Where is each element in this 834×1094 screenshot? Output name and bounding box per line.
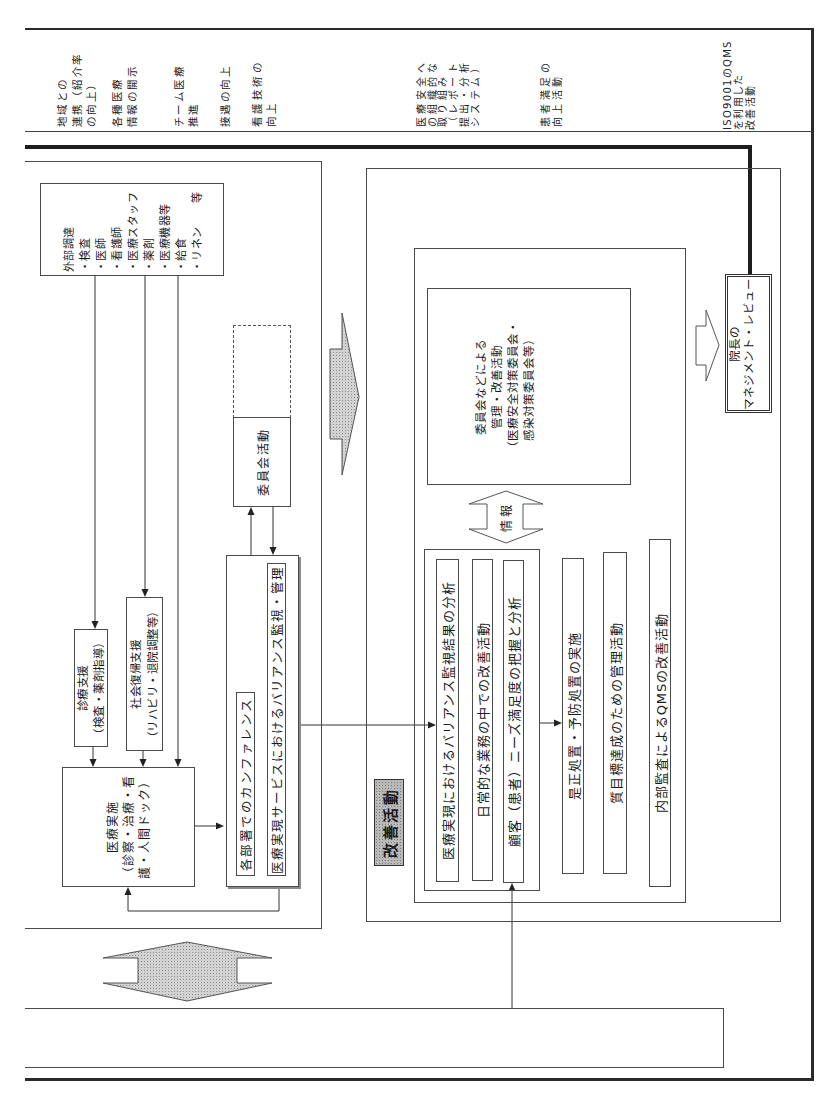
header-line: 向上活動 <box>552 60 564 128</box>
department-conference-box: 各部署でのカンファレンス <box>236 692 255 876</box>
header-line: チーム医療 <box>173 65 187 128</box>
header-line: 連携（紹介率 <box>70 52 85 127</box>
medical-support-detail: （検査・薬剤指導） <box>91 636 107 740</box>
procurement-item: ・リネン 等 <box>190 184 206 272</box>
header-label-information-disclosure: 各種医療 情報の開示 <box>110 65 139 128</box>
activity-label: 内部監査によるQMSの改善活動 <box>651 613 670 814</box>
header-label-regional-cooperation: 地域との 連携（紹介率 の向上） <box>55 52 99 127</box>
management-connector-vertical <box>25 145 752 149</box>
social-rehab-support-box: 社会復帰支援 （リハビリ・退院調整等） <box>126 597 163 751</box>
management-review-line: 院長の <box>728 326 742 362</box>
improvement-label-text: 改善活動 <box>379 788 400 858</box>
variance-monitoring-box: 医療実現サービスにおけるバリアンス監視・管理 <box>267 563 286 876</box>
header-label-team-medicine: チーム医療 推進 <box>173 65 200 128</box>
info-arrow-label: 情報 <box>497 495 514 539</box>
activity-internal-audit: 内部監査によるQMSの改善活動 <box>649 539 671 887</box>
header-line: 推進 <box>187 65 201 128</box>
header-line: 接遇の向上 <box>218 65 232 128</box>
medical-practice-detail: （診察・治療・看 <box>121 775 137 879</box>
improvement-label: 改善活動 <box>374 779 404 866</box>
frame-left-line <box>25 1078 814 1081</box>
medical-practice-detail: 護・人間ドック） <box>137 775 153 879</box>
procurement-item: ・薬剤 <box>142 184 158 272</box>
header-label-patient-satisfaction: 患者満足の 向上活動 <box>540 60 563 128</box>
management-review-box: 院長の マネジメント・レビュー <box>725 274 772 413</box>
frame-bottom-line <box>811 28 814 1081</box>
activity-customer-satisfaction-analysis: 顧客（患者）ニーズ満足度の把握と分析 <box>503 560 524 883</box>
header-line: を利用した <box>733 40 744 130</box>
medical-support-box: 診療支援 （検査・薬剤指導） <box>74 629 108 747</box>
department-conference-label: 各部署でのカンファレンス <box>236 697 255 871</box>
diagram-canvas: 地域との 連携（紹介率 の向上） 各種医療 情報の開示 チーム医療 推進 接遇の… <box>0 0 834 1094</box>
committee-activity-label: 委員会活動 <box>254 429 271 496</box>
header-line: 地域との <box>55 52 70 127</box>
management-review-line: マネジメント・レビュー <box>742 278 756 410</box>
procurement-item: ・検査 <box>78 184 94 272</box>
header-line: 各種医療 <box>110 65 125 128</box>
social-rehab-title: 社会復帰支援 <box>128 640 145 709</box>
activity-variance-analysis: 医療実現におけるバリアンス監視結果の分析 <box>436 559 459 882</box>
variance-monitoring-label: 医療実現サービスにおけるバリアンス監視・管理 <box>267 566 286 874</box>
external-procurement-title: 外部調達 <box>62 184 78 272</box>
external-procurement-box: 外部調達 ・検査 ・医師 ・看護師 ・医療スタッフ ・薬剤 ・医療機器等 ・給食… <box>40 183 224 276</box>
header-divider <box>25 131 812 132</box>
header-line: 患者満足の <box>540 60 552 128</box>
header-line: 向上 <box>264 60 278 128</box>
bidirectional-arrow-icon <box>103 942 272 1001</box>
committee-management-line: （医療安全対策委員会・ <box>505 289 521 484</box>
header-line: システム） <box>471 60 482 128</box>
committee-management-line: 感染対策委員会等） <box>521 289 537 484</box>
bottom-box <box>25 1008 724 1068</box>
header-line: 情報の開示 <box>125 65 140 128</box>
flow-arrow-to-improvement-icon <box>330 313 359 475</box>
activity-label: 医療実現におけるバリアンス監視結果の分析 <box>438 581 457 860</box>
committee-management-line: 委員会などによる <box>473 289 489 484</box>
header-line: の向上） <box>84 52 99 127</box>
medical-support-title: 診療支援 <box>75 665 91 711</box>
activity-label: 顧客（患者）ニーズ満足度の把握と分析 <box>504 596 523 847</box>
header-line: 提出・分析 <box>460 60 471 128</box>
activity-label: 是正処置・予防処置の実施 <box>564 632 583 800</box>
procurement-item: ・医療機器等 <box>158 184 174 272</box>
committee-management-line: 管理・改善活動 <box>489 289 505 484</box>
header-label-hospitality: 接遇の向上 <box>218 65 232 128</box>
placeholder-dashed-box <box>233 325 291 418</box>
activity-label: 日常的な業務の中での改善活動 <box>473 622 492 818</box>
medical-practice-box: 医療実施 （診察・治療・看 護・人間ドック） <box>62 767 195 887</box>
frame-right-line <box>25 28 814 30</box>
info-arrow-text: 情報 <box>497 502 514 532</box>
header-label-iso9001-qms: ISO9001のQMS を利用した 改善活動 <box>722 40 756 130</box>
header-line: 看護技術の <box>250 60 264 128</box>
medical-practice-title: 医療実施 <box>105 801 121 853</box>
committee-management-box: 委員会などによる 管理・改善活動 （医療安全対策委員会・ 感染対策委員会等） <box>427 288 631 485</box>
committee-activity-box: 委員会活動 <box>233 417 291 507</box>
diagram-page: 地域との 連携（紹介率 の向上） 各種医療 情報の開示 チーム医療 推進 接遇の… <box>0 0 834 1094</box>
procurement-item: ・医師 <box>94 184 110 272</box>
header-line: ISO9001のQMS <box>722 40 733 130</box>
header-line: 改善活動 <box>745 40 756 130</box>
procurement-item: ・給食 <box>174 184 190 272</box>
header-label-medical-safety: 医療安全へ の組織的な 取り組み （レポート 提出・分析 システム） <box>417 60 481 128</box>
activity-label: 質目標達成のための管理活動 <box>606 622 625 804</box>
activity-daily-improvement: 日常的な業務の中での改善活動 <box>472 559 493 881</box>
activity-quality-objective-management: 質目標達成のための管理活動 <box>603 552 627 874</box>
activity-corrective-preventive-action: 是正処置・予防処置の実施 <box>562 558 584 874</box>
procurement-item: ・医療スタッフ <box>126 184 142 272</box>
header-label-nursing-skill: 看護技術の 向上 <box>250 60 278 128</box>
social-rehab-detail: （リハビリ・退院調整等） <box>145 605 162 743</box>
procurement-item: ・看護師 <box>110 184 126 272</box>
